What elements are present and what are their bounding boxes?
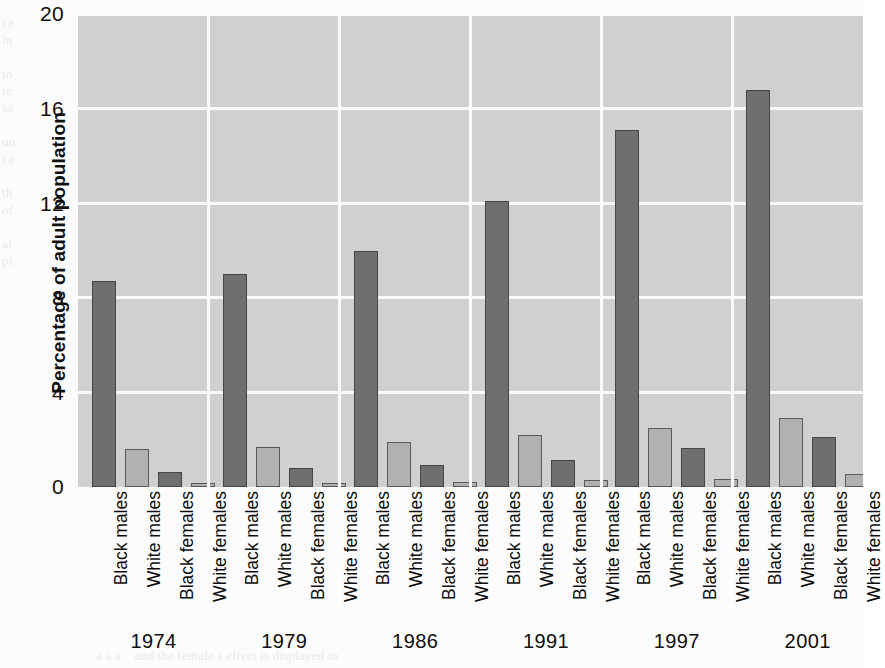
bar-1986-white-males	[387, 442, 411, 487]
x-category-label-1974-black-females: Black females	[177, 491, 198, 600]
group-separator-1997	[600, 14, 603, 487]
bar-1974-white-males	[125, 449, 149, 487]
x-category-label-1997-black-females: Black females	[700, 491, 721, 600]
x-category-label-1974-black-males: Black males	[111, 491, 132, 585]
x-category-label-1974-white-males: White males	[144, 491, 165, 587]
bar-1986-black-females	[420, 465, 444, 487]
x-category-label-2001-black-females: Black females	[831, 491, 852, 600]
y-tick-20: 20	[40, 2, 64, 26]
bar-1979-black-males	[223, 274, 247, 487]
x-category-label-1986-white-females: White females	[472, 491, 493, 602]
x-year-label-1974: 1974	[130, 630, 176, 653]
y-tick-12: 12	[40, 192, 64, 216]
x-year-label-1991: 1991	[523, 630, 569, 653]
bar-2001-black-males	[746, 90, 770, 487]
bar-1997-black-females	[681, 448, 705, 487]
bar-1991-white-females	[584, 480, 608, 487]
y-tick-8: 8	[52, 286, 64, 310]
x-category-label-1997-white-females: White females	[733, 491, 754, 602]
x-category-label-2001-white-males: White males	[798, 491, 819, 587]
x-year-label-1986: 1986	[392, 630, 438, 653]
y-tick-0: 0	[52, 475, 64, 499]
bar-1991-black-females	[551, 460, 575, 487]
bar-1986-black-males	[354, 251, 378, 488]
y-tick-4: 4	[52, 381, 64, 405]
bar-1979-black-females	[289, 468, 313, 487]
x-axis: Black malesWhite malesBlack femalesWhite…	[78, 487, 863, 668]
y-axis-tick-labels: 20 16 12 8 4 0	[0, 0, 72, 500]
bar-1991-white-males	[518, 435, 542, 487]
x-category-label-1979-white-females: White females	[341, 491, 362, 602]
x-year-label-2001: 2001	[785, 630, 831, 653]
bar-1997-white-females	[714, 479, 738, 487]
plot-area	[78, 14, 863, 487]
x-year-label-1997: 1997	[654, 630, 700, 653]
group-separator-1986	[338, 14, 341, 487]
x-year-label-1979: 1979	[261, 630, 307, 653]
bar-1991-black-males	[485, 201, 509, 487]
bar-1974-black-females	[158, 472, 182, 487]
x-category-label-1991-white-males: White males	[537, 491, 558, 587]
group-separator-1979	[207, 14, 210, 487]
x-category-label-1991-white-females: White females	[603, 491, 624, 602]
bar-2001-white-females	[845, 474, 863, 487]
x-category-label-1979-white-males: White males	[275, 491, 296, 587]
bar-1997-black-males	[615, 130, 639, 487]
x-category-label-2001-white-females: White females	[864, 491, 885, 602]
bar-1974-black-males	[92, 281, 116, 487]
x-category-label-1979-black-females: Black females	[308, 491, 329, 600]
x-category-label-2001-black-males: Black males	[765, 491, 786, 585]
x-category-label-1991-black-males: Black males	[504, 491, 525, 585]
bar-1997-white-males	[648, 428, 672, 487]
group-separator-1991	[469, 14, 472, 487]
y-tick-16: 16	[40, 97, 64, 121]
x-category-label-1979-black-males: Black males	[242, 491, 263, 585]
bar-2001-white-males	[779, 418, 803, 487]
x-category-label-1986-black-females: Black females	[439, 491, 460, 600]
bar-2001-black-females	[812, 437, 836, 487]
bar-1979-white-males	[256, 447, 280, 487]
x-category-label-1986-white-males: White males	[406, 491, 427, 587]
x-category-label-1997-black-males: Black males	[634, 491, 655, 585]
x-category-label-1974-white-females: White females	[210, 491, 231, 602]
x-category-label-1986-black-males: Black males	[373, 491, 394, 585]
x-category-label-1991-black-females: Black females	[570, 491, 591, 600]
x-category-label-1997-white-males: White males	[667, 491, 688, 587]
group-separator-2001	[731, 14, 734, 487]
